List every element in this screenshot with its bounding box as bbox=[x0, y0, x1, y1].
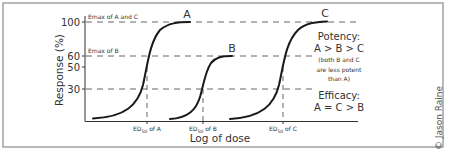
efficacy-title: Efficacy: bbox=[318, 90, 360, 101]
x-axis-title: Log of dose bbox=[190, 132, 251, 144]
ytick-label-50: 50 bbox=[67, 62, 80, 73]
ytick-label-30: 30 bbox=[67, 84, 80, 95]
curve-b-label: B bbox=[228, 42, 236, 55]
curve-a-label: A bbox=[183, 8, 191, 21]
ytick-label-100: 100 bbox=[61, 17, 80, 28]
emax-ac-label: Emax of A and C bbox=[88, 13, 138, 20]
annotation-block: Potency: A > B > C (both B and C are les… bbox=[314, 31, 364, 113]
potency-title: Potency: bbox=[318, 31, 360, 42]
curve-c-label: C bbox=[321, 7, 329, 20]
potency-note-2: are less potent bbox=[317, 66, 362, 74]
efficacy-order: A = C > B bbox=[314, 102, 364, 113]
potency-note-3: than A) bbox=[328, 75, 350, 82]
potency-note-1: (both B and C bbox=[318, 56, 359, 63]
emax-b-label: Emax of B bbox=[88, 47, 119, 54]
ytick-label-60: 60 bbox=[67, 51, 80, 62]
dose-response-chart: 100 60 50 30 Emax of A and C Emax of B R… bbox=[0, 0, 449, 152]
copyright-text: © Jason Raine bbox=[434, 85, 444, 150]
potency-order: A > B > C bbox=[314, 43, 364, 54]
y-axis-title: Response (%) bbox=[53, 34, 65, 106]
